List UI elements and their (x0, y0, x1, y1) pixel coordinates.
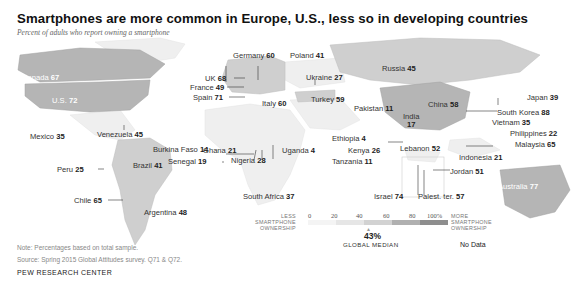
label-south-korea: South Korea 88 (497, 108, 550, 117)
label-israel: Israel 74 (374, 192, 403, 201)
label-south-africa: South Africa 37 (243, 192, 295, 201)
global-median-value: 43% (364, 231, 381, 241)
label-ethiopia: Ethiopia 4 (332, 134, 366, 143)
label-philippines: Philippines 22 (510, 129, 557, 138)
label-jordan: Jordan 51 (450, 167, 484, 176)
label-ghana: Ghana 21 (203, 146, 236, 155)
footnote: Note: Percentages based on total sample. (17, 244, 138, 251)
label-uk: UK 68 (205, 74, 226, 83)
label-venezuela: Venezuela 45 (97, 130, 143, 139)
legend-tick-20: 20 (331, 212, 338, 219)
legend-tick-80: 80 (409, 212, 416, 219)
legend-tick-100: 100% (427, 212, 442, 219)
label-indonesia: Indonesia 21 (459, 153, 503, 162)
label-india: India17 (403, 113, 419, 129)
global-median-label: GLOBAL MEDIAN (343, 241, 399, 248)
label-japan: Japan 39 (527, 93, 558, 102)
label-tanzania: Tanzania 11 (332, 157, 373, 166)
label-nigeria: Nigeria 28 (231, 156, 266, 165)
label-canada: Canada 67 (22, 73, 59, 82)
legend-less-label: LESSSMARTPHONEOWNERSHIP (255, 213, 296, 231)
label-mexico: Mexico 35 (30, 132, 65, 141)
label-ukraine: Ukraine 27 (306, 73, 343, 82)
label-argentina: Argentina 48 (144, 208, 187, 217)
label-france: France 49 (190, 83, 224, 92)
label-poland: Poland 41 (290, 51, 324, 60)
label-peru: Peru 25 (57, 165, 84, 174)
label-vietnam: Vietnam 35 (492, 118, 530, 127)
label-australia: Australia 77 (498, 182, 538, 191)
no-data-label: No Data (460, 241, 486, 248)
label-us: U.S. 72 (52, 96, 77, 105)
pew-logo-text: PEW RESEARCH CENTER (17, 269, 112, 276)
label-china: China 58 (428, 100, 458, 109)
label-lebanon: Lebanon 52 (400, 144, 440, 153)
legend-tick-60: 60 (383, 212, 390, 219)
legend-color-scale (308, 220, 448, 225)
label-kenya: Kenya 26 (348, 146, 380, 155)
label-senegal: Senegal 19 (168, 157, 206, 166)
label-italy: Italy 60 (262, 99, 287, 108)
label-malaysia: Malaysia 65 (515, 140, 556, 149)
label-chile: Chile 65 (74, 196, 102, 205)
legend-tick-40: 40 (356, 212, 363, 219)
label-palestinian-territories: Palest. ter. 57 (418, 192, 464, 201)
label-pakistan: Pakistan 11 (354, 104, 393, 113)
label-spain: Spain 71 (193, 93, 223, 102)
legend-more-label: MORESMARTPHONEOWNERSHIP (451, 213, 492, 231)
legend-tick-0: 0 (308, 212, 311, 219)
label-germany: Germany 60 (233, 51, 275, 60)
source-note: Source: Spring 2015 Global Attitudes sur… (17, 256, 182, 263)
label-russia: Russia 45 (382, 64, 416, 73)
label-turkey: Turkey 59 (311, 95, 345, 104)
label-uganda: Uganda 4 (282, 146, 315, 155)
label-burkina-faso: Burkina Faso 14 (153, 145, 208, 154)
label-brazil: Brazil 41 (133, 161, 163, 170)
